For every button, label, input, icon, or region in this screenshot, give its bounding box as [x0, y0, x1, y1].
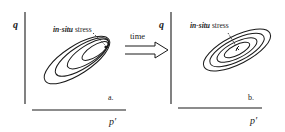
- panel-b-label: b.: [248, 93, 254, 102]
- panel-b-y-label: q: [159, 19, 164, 30]
- panel-b: q p′ b. in-situ stress: [159, 12, 276, 126]
- panel-a-annotation: in-situ stress: [53, 25, 92, 34]
- panel-b-annotation: in-situ stress: [190, 21, 229, 30]
- panel-a-insitu-point-icon: [104, 45, 107, 48]
- panel-b-insitu-point-icon: [236, 46, 239, 51]
- panel-a: q p′ a. in-situ stress: [13, 12, 126, 127]
- panel-b-x-label: p′: [249, 115, 258, 126]
- time-label: time: [130, 31, 145, 41]
- panel-a-contours: [38, 28, 117, 93]
- yield-surface-diagram: q p′ a. in-situ stress time q p′ b.: [0, 0, 285, 132]
- time-transition: time: [125, 31, 168, 58]
- panel-a-label: a.: [108, 93, 114, 102]
- hollow-right-arrow-icon: [125, 42, 168, 58]
- panel-a-x-label: p′: [108, 116, 117, 127]
- panel-a-y-label: q: [13, 19, 18, 30]
